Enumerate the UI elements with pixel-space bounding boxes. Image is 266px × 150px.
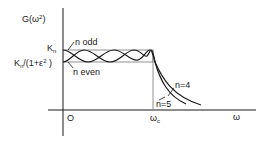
- chebyshev-response-figure: G(ω2) Kn Kn/(1+ε2 ) n odd n even n=4 n=5…: [0, 0, 266, 150]
- n-odd-ripple-curve: [63, 50, 155, 62]
- origin-label: O: [67, 113, 74, 123]
- n-odd-leader: [68, 42, 74, 50]
- n4-label: n=4: [175, 80, 190, 90]
- n-even-label: n even: [73, 67, 100, 77]
- kn-level-label: Kn: [47, 43, 56, 54]
- n-odd-label: n odd: [75, 37, 98, 47]
- y-axis-label: G(ω2): [22, 14, 45, 24]
- x-axis-label: ω: [233, 112, 240, 122]
- cutoff-frequency-label: ωc: [150, 113, 160, 124]
- kn-lower-level-label: Kn/(1+ε2 ): [14, 58, 52, 69]
- n5-label: n=5: [156, 99, 171, 109]
